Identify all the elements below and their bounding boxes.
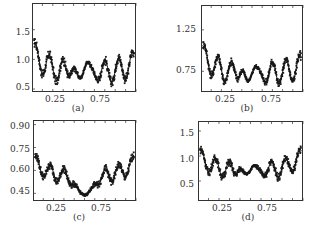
ytick-label: 0.90 (2, 121, 30, 131)
ytick-label: 0.75 (2, 144, 30, 154)
plot-area-d (198, 121, 303, 201)
ytick-label: 1.0 (166, 154, 194, 164)
caption-c: (c) (67, 212, 91, 222)
plot-area-a (32, 3, 136, 92)
caption-a: (a) (66, 103, 90, 113)
ytick-label: 1.25 (168, 24, 196, 34)
ytick-label: 1.5 (2, 27, 30, 37)
caption-d: (d) (236, 212, 260, 222)
ytick-label: 1.5 (166, 128, 194, 138)
ytick-label: 0.5 (166, 179, 194, 189)
caption-b: (b) (235, 103, 259, 113)
plot-area-c (33, 120, 136, 201)
ytick-label: 0.5 (2, 82, 30, 92)
xtick-label: 0.25 (207, 203, 237, 213)
ytick-label: 0.45 (2, 186, 30, 196)
ytick-label: 0.75 (168, 65, 196, 75)
xtick-label: 0.75 (256, 94, 286, 104)
ytick-label: 1.0 (2, 55, 30, 65)
plot-area-b (201, 5, 303, 92)
ytick-label: 0.60 (2, 164, 30, 174)
